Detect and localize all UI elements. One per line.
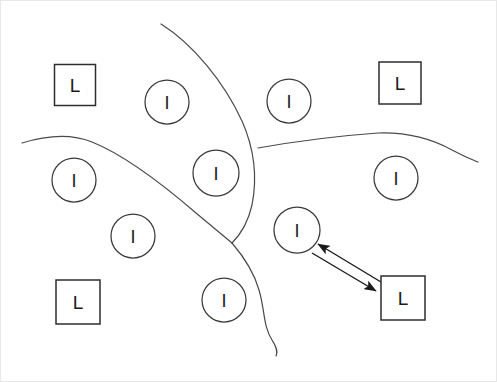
node-i-mid-right[interactable]: I xyxy=(274,207,320,253)
bidirectional-connector[interactable] xyxy=(312,244,381,291)
arrow-to-square-icon xyxy=(312,253,376,291)
node-i-bottom[interactable]: I xyxy=(202,278,246,322)
node-i-top-left[interactable]: I xyxy=(145,80,189,124)
node-label: I xyxy=(71,171,76,191)
node-label: I xyxy=(286,92,291,112)
node-l-top-right[interactable]: L xyxy=(379,62,421,104)
boundary-curve-vertical xyxy=(161,24,255,243)
node-label: I xyxy=(393,169,398,189)
diagram-svg: LLLLIIIIIIII xyxy=(0,0,497,382)
node-label: L xyxy=(70,75,81,96)
node-i-center[interactable]: I xyxy=(193,150,239,196)
node-i-left[interactable]: I xyxy=(52,158,96,202)
diagram-canvas: LLLLIIIIIIII xyxy=(0,0,497,382)
node-l-bottom-left[interactable]: L xyxy=(56,280,100,324)
node-label: I xyxy=(130,227,135,247)
node-i-right[interactable]: I xyxy=(374,156,418,200)
node-label: I xyxy=(221,291,226,311)
nodes-group: LLLLIIIIIIII xyxy=(52,62,425,324)
node-label: L xyxy=(398,288,409,309)
node-i-top-right[interactable]: I xyxy=(267,79,311,123)
node-l-bottom-right[interactable]: L xyxy=(381,276,425,320)
node-label: I xyxy=(213,164,218,184)
boundary-curve-right-horizontal xyxy=(258,133,478,162)
node-i-mid-left[interactable]: I xyxy=(111,214,155,258)
node-label: L xyxy=(395,73,406,94)
node-label: I xyxy=(294,221,299,241)
node-label: L xyxy=(73,292,84,313)
arrow-to-circle-icon xyxy=(318,244,381,282)
node-l-top-left[interactable]: L xyxy=(55,65,96,106)
node-label: I xyxy=(164,93,169,113)
